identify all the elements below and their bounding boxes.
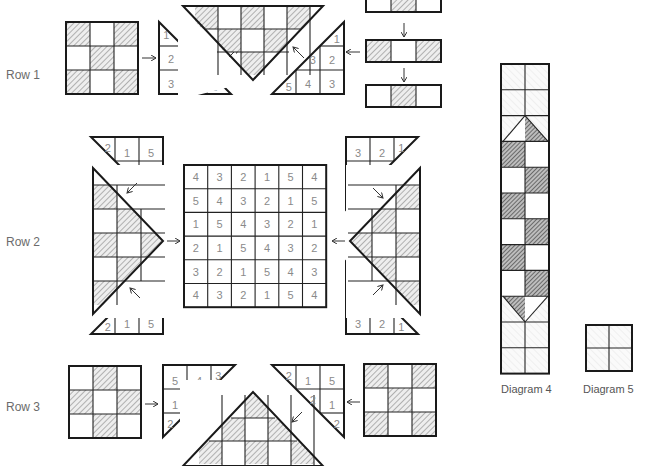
row1-strip-1 (366, 0, 441, 12)
cell-number: 2 (286, 370, 292, 382)
grid-cell-number: 1 (216, 242, 222, 254)
row2-center-grid: 432154543215154321215432321543432154 (184, 165, 326, 307)
grid-cell-number: 1 (193, 218, 199, 230)
grid-cell-number: 4 (216, 195, 222, 207)
grid-cell-number: 3 (288, 242, 294, 254)
cell-number: 2 (310, 394, 316, 406)
grid-cell-number: 4 (288, 266, 294, 278)
grid-cell-number: 4 (193, 289, 199, 301)
cell-number: 1 (398, 321, 404, 333)
cell-number: 5 (286, 81, 292, 93)
grid-cell-number: 5 (264, 266, 270, 278)
cell-number: 5 (329, 375, 335, 387)
grid-cell-number: 4 (240, 218, 246, 230)
cell-number: 3 (310, 54, 316, 66)
row3-bottom-triangle (180, 380, 330, 466)
cell-number: 1 (305, 375, 311, 387)
cell-number: 1 (172, 399, 178, 411)
grid-cell-number: 3 (240, 195, 246, 207)
cell-number: 4 (305, 78, 311, 90)
grid-cell-number: 3 (264, 218, 270, 230)
cell-number: 5 (172, 375, 178, 387)
grid-cell-number: 2 (288, 218, 294, 230)
grid-cell-number: 3 (216, 289, 222, 301)
grid-cell-number: 3 (216, 171, 222, 183)
grid-cell-number: 5 (193, 195, 199, 207)
diagram-4 (501, 64, 549, 374)
grid-cell-number: 3 (193, 266, 199, 278)
grid-cell-number: 5 (288, 171, 294, 183)
grid-cell-number: 4 (311, 171, 317, 183)
grid-cell-number: 2 (264, 195, 270, 207)
grid-cell-number: 1 (288, 195, 294, 207)
cell-number: 5 (148, 318, 154, 330)
grid-cell-number: 5 (311, 195, 317, 207)
cell-number: 1 (124, 318, 130, 330)
cell-number: 2 (167, 418, 173, 430)
cell-number: 1 (398, 142, 404, 154)
cell-number: 2 (168, 53, 174, 65)
cell-number: 2 (334, 418, 340, 430)
row1-strip-2 (366, 40, 441, 62)
row1-block (66, 22, 138, 94)
cell-number: 5 (148, 147, 154, 159)
cell-number: 3 (355, 147, 361, 159)
cell-number: 2 (105, 321, 111, 333)
grid-cell-number: 1 (264, 171, 270, 183)
grid-cell-number: 4 (193, 171, 199, 183)
grid-cell-number: 1 (311, 218, 317, 230)
cell-number: 3 (329, 78, 335, 90)
grid-cell-number: 1 (240, 266, 246, 278)
grid-cell-number: 5 (240, 242, 246, 254)
cell-number: 2 (329, 54, 335, 66)
cell-number: 1 (334, 33, 340, 45)
grid-cell-number: 4 (311, 289, 317, 301)
cell-number: 1 (124, 147, 130, 159)
grid-cell-number: 2 (193, 242, 199, 254)
diagram-5 (586, 325, 632, 371)
row3-left-block (69, 366, 141, 438)
cell-number: 3 (168, 78, 174, 90)
grid-cell-number: 5 (288, 289, 294, 301)
grid-cell-number: 1 (264, 289, 270, 301)
row1-strip-3 (366, 85, 441, 107)
cell-number: 3 (355, 318, 361, 330)
grid-cell-number: 2 (240, 289, 246, 301)
row3-right-block (364, 364, 436, 436)
row2-right-side-triangle (346, 165, 422, 318)
grid-cell-number: 3 (311, 266, 317, 278)
grid-cell-number: 2 (216, 266, 222, 278)
cell-number: 2 (379, 318, 385, 330)
grid-cell-number: 2 (311, 242, 317, 254)
grid-cell-number: 4 (264, 242, 270, 254)
quilt-diagram-canvas: 1213211235434321545432151543212154323215… (0, 0, 654, 466)
cell-number: 1 (329, 399, 335, 411)
cell-number: 2 (105, 142, 111, 154)
grid-cell-number: 2 (240, 171, 246, 183)
cell-number: 1 (163, 29, 169, 41)
grid-cell-number: 5 (216, 218, 222, 230)
cell-number: 2 (379, 147, 385, 159)
